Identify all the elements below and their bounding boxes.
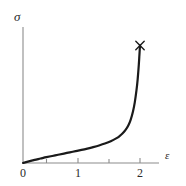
x-axis-ticks: [47, 158, 141, 163]
y-axis-title: σ: [14, 10, 20, 23]
stress-strain-curve: [23, 46, 140, 163]
plot-canvas: [0, 0, 186, 186]
stress-strain-chart-figure: σ ε 0 1 2: [0, 0, 186, 186]
x-tick-label-1: 1: [71, 167, 85, 179]
x-axis-title: ε: [165, 150, 169, 161]
x-tick-label-0: 0: [16, 167, 30, 179]
x-tick-label-2: 2: [133, 167, 147, 179]
